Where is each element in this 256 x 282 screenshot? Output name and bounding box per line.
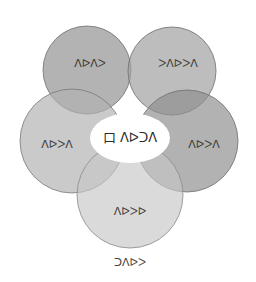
center-label: 口 ᐱᐅᑐᐱ (103, 130, 158, 145)
petal-label-left: ᐱᐅᐳᐱ (41, 138, 73, 151)
flower-diagram: ᐱᐅᐱᐳ ᐳᐱᐅᐳᐱ ᐱᐅᐳᐱ ᐱᐅᐳᐱ ᐱᐅᐳᐅ 口 ᐱᐅᑐᐱ ᑐᐱᐅᐳ (0, 0, 256, 282)
diagram-caption: ᑐᐱᐅᐳ (114, 256, 146, 269)
petal-label-right: ᐱᐅᐳᐱ (188, 138, 220, 151)
petal-label-bottom: ᐱᐅᐳᐅ (114, 205, 146, 218)
petal-label-top-left: ᐱᐅᐱᐳ (74, 57, 106, 70)
petal-label-top-right: ᐳᐱᐅᐳᐱ (158, 57, 198, 70)
